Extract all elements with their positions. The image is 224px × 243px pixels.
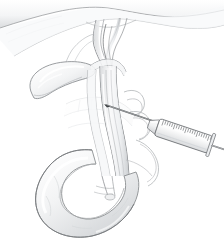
illustration-canvas <box>0 0 224 243</box>
medical-illustration-svg <box>0 0 224 243</box>
